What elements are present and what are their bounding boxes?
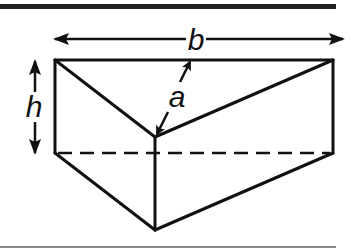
label-a: a [169,80,186,113]
prism-top-left-diagonal [55,60,155,137]
triangular-prism-diagram: b h a [0,0,362,249]
prism-bottom-right-diagonal [155,153,333,230]
label-h: h [26,90,43,123]
prism [55,60,333,230]
top-rule [0,4,336,9]
bottom-rule [0,246,336,248]
label-b: b [188,23,205,56]
dimension-b: b [55,23,343,56]
dimension-h: h [26,61,43,153]
prism-bottom-left-diagonal [55,153,155,230]
